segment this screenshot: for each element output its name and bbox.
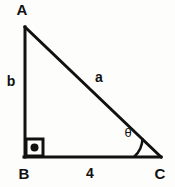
vertex-label-a: A [17, 1, 28, 18]
side-label-b: b [7, 73, 16, 89]
right-angle-dot-icon [31, 144, 39, 152]
triangle-diagram-canvas: A B C b a 4 θ [0, 0, 175, 187]
vertex-label-c: C [155, 165, 166, 182]
side-hypotenuse-a [25, 27, 161, 157]
vertex-label-b: B [19, 165, 30, 182]
geometry-figure: A B C b a 4 θ [0, 0, 175, 187]
side-label-a: a [95, 69, 103, 85]
side-label-base-length: 4 [86, 165, 94, 181]
angle-label-theta: θ [124, 125, 131, 140]
theta-angle-arc-icon [134, 138, 143, 157]
